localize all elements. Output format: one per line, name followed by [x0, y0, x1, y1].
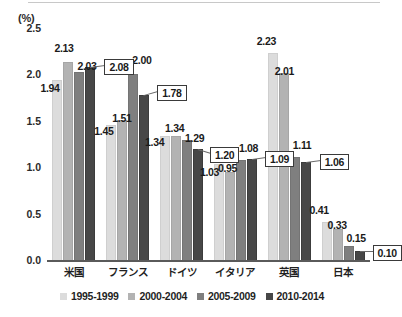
y-axis-tick-label: 2.0	[26, 68, 47, 80]
value-label: 1.29	[185, 132, 204, 144]
bar[interactable]	[290, 157, 300, 260]
x-axis-category-label: 英国	[262, 264, 316, 279]
value-label: 0.95	[218, 162, 237, 174]
x-axis-category-label: フランス	[101, 264, 155, 279]
plot-area: 0.00.51.01.52.02.51.942.132.032.081.451.…	[47, 28, 370, 260]
legend-item[interactable]: 2000-2004	[128, 290, 187, 302]
bar[interactable]	[225, 172, 235, 260]
bar[interactable]	[117, 120, 127, 260]
legend-label: 2005-2009	[208, 290, 256, 302]
value-label: 2.01	[275, 65, 294, 77]
x-axis-line	[47, 260, 370, 262]
bar[interactable]	[171, 136, 181, 260]
bar[interactable]	[139, 95, 149, 260]
bar[interactable]	[63, 62, 73, 260]
value-label: 0.15	[347, 232, 366, 244]
bar[interactable]	[128, 74, 138, 260]
value-label: 2.00	[132, 54, 151, 66]
y-axis-tick-label: 1.0	[26, 161, 47, 173]
value-label: 1.51	[112, 112, 131, 124]
value-label: 1.11	[293, 139, 312, 151]
legend-item[interactable]: 2010-2014	[266, 290, 325, 302]
value-label: 1.94	[40, 82, 59, 94]
legend-item[interactable]: 1995-1999	[60, 290, 119, 302]
legend-item[interactable]: 2005-2009	[197, 290, 256, 302]
bar[interactable]	[85, 67, 95, 260]
bar[interactable]	[333, 229, 343, 260]
bar[interactable]	[74, 72, 84, 260]
bar[interactable]	[106, 125, 116, 260]
value-label-callout: 1.09	[265, 151, 294, 167]
bar[interactable]	[160, 136, 170, 260]
x-axis-category-label: イタリア	[209, 264, 263, 279]
value-label: 1.34	[165, 122, 184, 134]
bar[interactable]	[193, 149, 203, 260]
chart-legend: 1995-19992000-20042005-20092010-2014	[0, 290, 384, 302]
legend-swatch-icon	[266, 293, 273, 300]
legend-label: 1995-1999	[71, 290, 119, 302]
x-axis-category-label: ドイツ	[155, 264, 209, 279]
value-label-callout: 1.78	[157, 85, 186, 101]
value-label: 0.41	[310, 204, 329, 216]
legend-label: 2010-2014	[277, 290, 325, 302]
value-label: 0.33	[328, 219, 347, 231]
value-label: 1.45	[94, 125, 113, 137]
value-label-callout: 1.20	[210, 147, 239, 163]
value-label: 1.03	[200, 166, 219, 178]
top-divider	[28, 2, 380, 3]
bar[interactable]	[355, 251, 365, 260]
x-axis-category-label: 日本	[316, 264, 370, 279]
y-axis-tick-label: 1.5	[26, 115, 47, 127]
value-label: 1.34	[145, 136, 164, 148]
value-label-callout: 0.10	[373, 245, 402, 261]
bar[interactable]	[236, 160, 246, 260]
legend-swatch-icon	[128, 293, 135, 300]
legend-label: 2000-2004	[139, 290, 187, 302]
value-label-callout: 2.08	[104, 59, 133, 75]
y-axis-tick-label: 0.5	[26, 208, 47, 220]
bar[interactable]	[247, 159, 257, 260]
value-label: 2.23	[257, 35, 276, 47]
callout-leader-line	[360, 251, 374, 252]
bar[interactable]	[214, 164, 224, 260]
bar[interactable]	[182, 140, 192, 260]
legend-swatch-icon	[197, 293, 204, 300]
value-label: 2.13	[54, 42, 73, 54]
bar[interactable]	[344, 246, 354, 260]
y-axis-tick-label: 0.0	[26, 254, 47, 266]
x-axis-category-label: 米国	[47, 264, 101, 279]
value-label-callout: 1.06	[320, 154, 349, 170]
y-axis-tick-label: 2.5	[26, 22, 47, 34]
bar[interactable]	[52, 80, 62, 260]
legend-swatch-icon	[60, 293, 67, 300]
value-label: 1.08	[239, 142, 258, 154]
